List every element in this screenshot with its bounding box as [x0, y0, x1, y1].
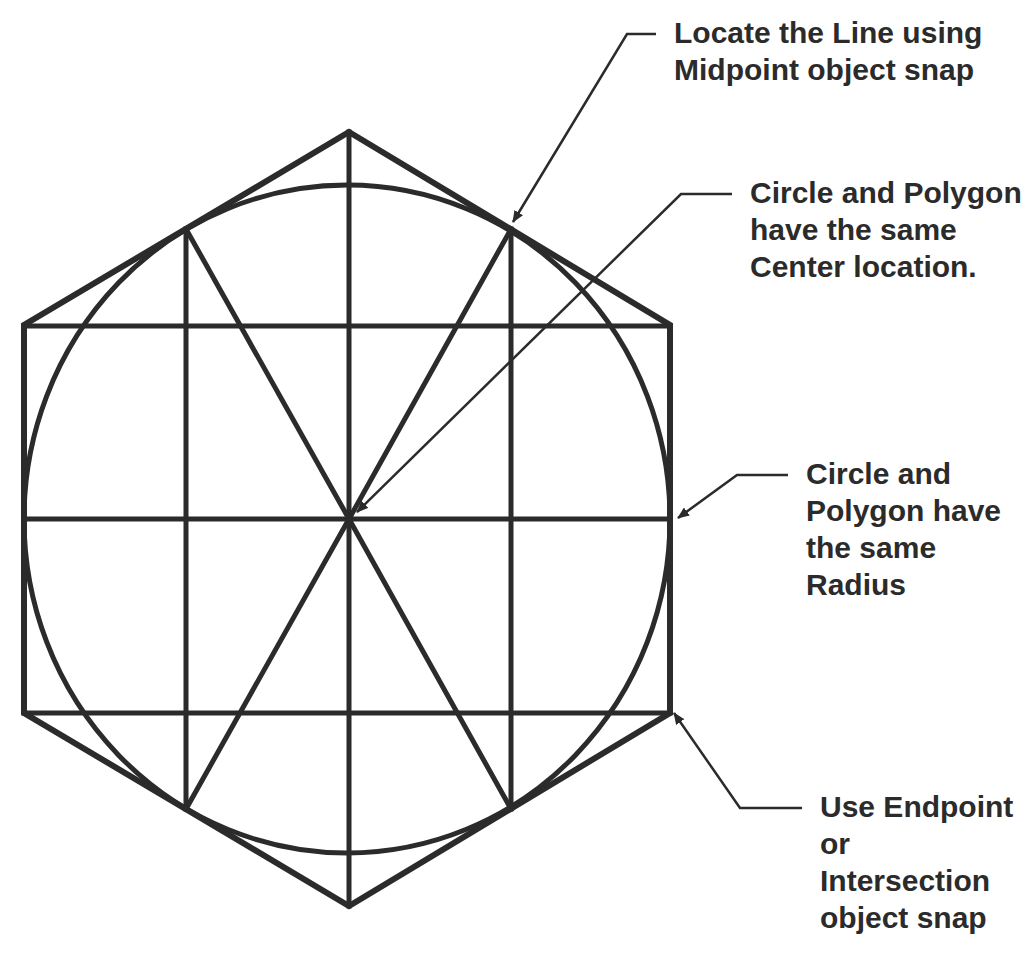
- callout-same-center: Circle and Polygon have the same Center …: [750, 174, 1022, 285]
- callout-line: Intersection: [820, 862, 1013, 899]
- callout-line: Use Endpoint: [820, 788, 1013, 825]
- leader-arrows: [357, 34, 802, 808]
- callout-midpoint-snap: Locate the Line using Midpoint object sn…: [674, 14, 982, 88]
- callout-line: Radius: [806, 566, 1001, 603]
- construction-lines: [24, 132, 670, 906]
- diagonal-lower-right: [349, 519, 511, 809]
- callout-line: have the same: [750, 211, 1022, 248]
- callout-line: the same: [806, 529, 1001, 566]
- leader-arrow-center: [357, 194, 732, 512]
- diagonal-upper-right: [349, 229, 511, 519]
- callout-line: Center location.: [750, 248, 1022, 285]
- callout-line: Circle and: [806, 455, 1001, 492]
- callout-endpoint-snap: Use Endpoint or Intersection object snap: [820, 788, 1013, 936]
- callout-line: or: [820, 825, 1013, 862]
- callout-line: Locate the Line using: [674, 14, 982, 51]
- leader-arrow-endpoint: [674, 713, 802, 808]
- callout-line: object snap: [820, 899, 1013, 936]
- callout-same-radius: Circle and Polygon have the same Radius: [806, 455, 1001, 603]
- leader-arrow-radius: [678, 475, 788, 518]
- diagonal-upper-left: [186, 229, 349, 519]
- callout-line: Midpoint object snap: [674, 51, 982, 88]
- diagonal-lower-left: [186, 519, 349, 809]
- callout-line: Polygon have: [806, 492, 1001, 529]
- leader-arrow-midpoint: [513, 34, 656, 222]
- callout-line: Circle and Polygon: [750, 174, 1022, 211]
